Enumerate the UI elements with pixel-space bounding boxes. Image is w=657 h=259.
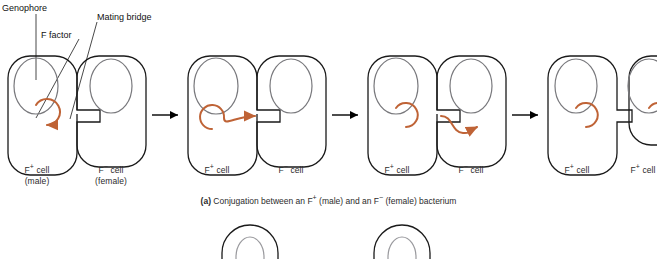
annotation-genophore: Genophore	[2, 3, 47, 13]
annotation-mating-bridge: Mating bridge	[97, 12, 152, 22]
stage-1-cells	[8, 56, 146, 175]
stage-2-cells	[188, 56, 326, 175]
stage-3-transfer-strand	[441, 116, 477, 133]
stage-2-left-cell-wall	[188, 56, 280, 175]
stage-1-left-cell-label: F+ cell(male)	[6, 165, 68, 186]
stage-1-right-genophore	[90, 59, 132, 113]
stage-1-right-cell-label: F− cell(female)	[80, 165, 142, 186]
panel-b-right-cell-wall	[374, 225, 430, 259]
stage-2-right-genophore	[270, 59, 312, 113]
stage-2-right-cell-wall	[257, 56, 326, 167]
stage-2-f-factor-transfer	[200, 105, 255, 129]
stage-3-cells	[368, 56, 506, 175]
stage-3-f-factor-remaining	[396, 103, 418, 127]
stage-2-right-cell-label: F− cell	[260, 165, 322, 176]
stage-2-left-cell-label: F+ cell	[186, 165, 248, 176]
panel-b-left-cell-wall	[222, 225, 278, 259]
stage-3-left-genophore	[374, 58, 418, 114]
stage-3-right-genophore	[450, 59, 492, 113]
stage-1-left-cell-wall	[8, 56, 100, 175]
stage-1-right-cell-wall	[77, 56, 146, 167]
stage-4-left-cell-label: F+ cell	[546, 165, 608, 176]
caption-text: Conjugation between an F+ (male) and an …	[213, 196, 456, 206]
diagram-canvas	[0, 0, 657, 259]
panel-b-right-genophore	[388, 237, 416, 259]
figure-caption: (a) Conjugation between an F+ (male) and…	[0, 196, 657, 206]
stage-3-right-cell-wall	[437, 56, 506, 167]
figure-conjugation-diagram: Genophore F factor Mating bridge F+ cell…	[0, 0, 657, 259]
stage-4-right-cell-wall	[629, 56, 657, 145]
panel-b-left-genophore	[236, 237, 264, 259]
stage-4-left-f-factor	[576, 103, 598, 127]
annotation-f-factor: F factor	[41, 30, 72, 40]
caption-marker: (a)	[201, 196, 211, 206]
stage-4-left-cell-wall	[548, 56, 632, 175]
stage-3-right-cell-label: F− cell	[440, 165, 502, 176]
panel-b-preview	[222, 225, 430, 259]
stage-3-left-cell-label: F+ cell	[366, 165, 428, 176]
stage-4-right-cell-label: F+ cell	[612, 165, 657, 176]
stage-4-right-f-factor	[649, 103, 657, 127]
stage-3-left-cell-wall	[368, 56, 460, 175]
stage-4-cells	[548, 56, 657, 175]
